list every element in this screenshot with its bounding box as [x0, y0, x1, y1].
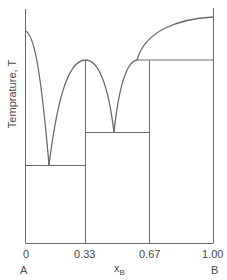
phase-diagram: [0, 0, 227, 280]
liquidus-to-peritectic: [114, 60, 137, 132]
component-a-label: A: [20, 264, 27, 276]
liquidus-compound-right: [86, 60, 115, 132]
component-b-label: B: [211, 264, 218, 276]
liquidus-b: [137, 17, 214, 60]
liquidus-compound-left: [49, 60, 86, 165]
x-axis-label: xB: [114, 262, 125, 277]
x-tick-100: 1.00: [202, 248, 223, 260]
x-tick-0: 0: [23, 248, 29, 260]
x-axis-label-sub: B: [120, 268, 125, 277]
x-tick-033: 0.33: [74, 248, 95, 260]
x-tick-067: 0.67: [139, 248, 160, 260]
y-axis-label: Temprature, T: [6, 44, 18, 144]
liquidus-a: [26, 31, 50, 165]
